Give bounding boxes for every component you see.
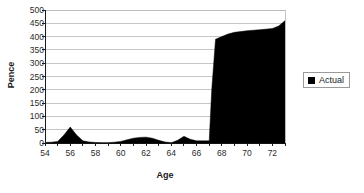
x-axis-tick-label: 64 <box>167 149 176 158</box>
x-axis-tick-label: 56 <box>66 149 75 158</box>
area-chart: Pence 050100150200250300350400450500 545… <box>0 0 364 193</box>
x-axis-tick-label: 70 <box>242 149 251 158</box>
x-axis-tick-label: 60 <box>116 149 125 158</box>
legend-label-actual: Actual <box>319 75 344 85</box>
x-axis-tick-label: 58 <box>91 149 100 158</box>
x-axis-tick-label: 72 <box>268 149 277 158</box>
x-axis-title: Age <box>45 170 285 180</box>
x-axis-tick-labels: 54565860626466687072 <box>0 0 364 20</box>
x-axis-tick-label: 54 <box>40 149 49 158</box>
chart-legend: Actual <box>303 72 350 88</box>
x-axis-tick-label: 66 <box>192 149 201 158</box>
x-axis-tick-label: 62 <box>141 149 150 158</box>
plot-area <box>0 0 364 193</box>
legend-swatch-actual-icon <box>308 77 315 84</box>
x-axis-tick-label: 68 <box>217 149 226 158</box>
